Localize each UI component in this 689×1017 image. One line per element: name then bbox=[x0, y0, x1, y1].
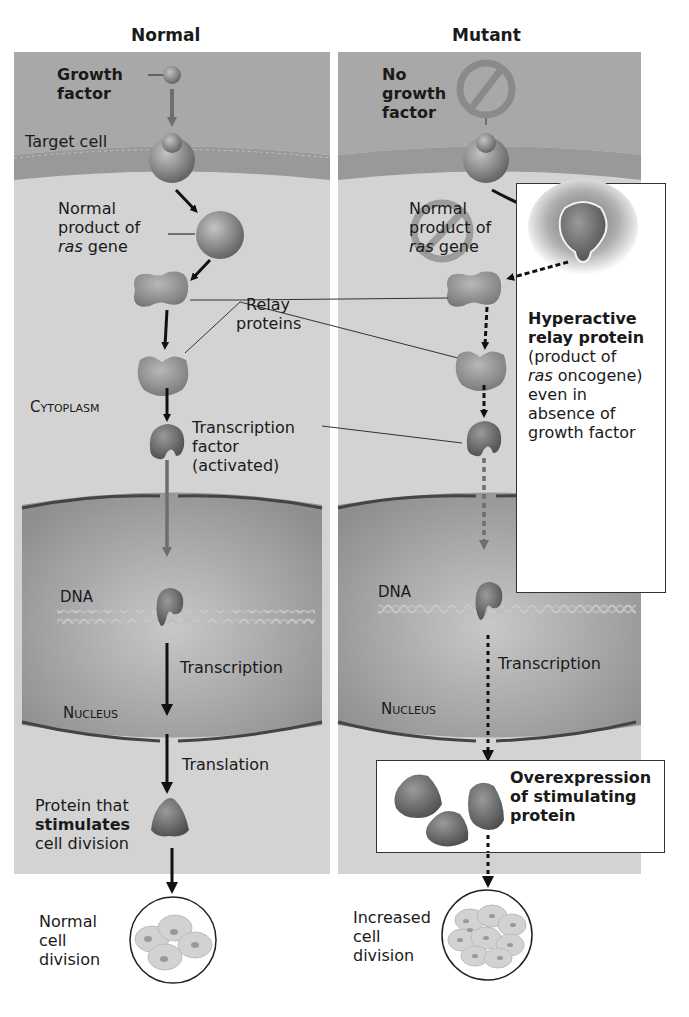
title-mutant: Mutant bbox=[452, 26, 521, 45]
title-normal: Normal bbox=[131, 26, 200, 45]
label-ras-product: Normal product of ras gene bbox=[58, 199, 140, 256]
ras-protein-normal bbox=[196, 211, 244, 259]
label-nucleus-mutant: Nucleus bbox=[381, 700, 436, 719]
label-nucleus-normal: Nucleus bbox=[63, 704, 118, 723]
label-relay-proteins: Relayproteins bbox=[236, 295, 301, 333]
label-transcription-mutant: Transcription bbox=[498, 654, 601, 673]
growth-factor-molecule bbox=[163, 66, 181, 84]
label-increased-division: Increasedcelldivision bbox=[353, 908, 431, 965]
label-transcription-factor: Transcriptionfactor(activated) bbox=[192, 418, 295, 475]
label-dna-mutant: DNA bbox=[378, 583, 411, 602]
label-normal-division: Normalcelldivision bbox=[39, 912, 100, 969]
label-transcription-normal: Transcription bbox=[180, 658, 283, 677]
label-no-growth-factor: Nogrowthfactor bbox=[382, 65, 446, 122]
label-translation: Translation bbox=[182, 755, 269, 774]
relay-protein-2 bbox=[456, 351, 507, 391]
label-dna-normal: DNA bbox=[60, 588, 93, 607]
relay-protein-1 bbox=[134, 271, 188, 306]
label-growth-factor: Growthfactor bbox=[57, 65, 123, 103]
label-cytoplasm: Cytoplasm bbox=[30, 398, 100, 417]
label-stimulating-protein: Protein thatstimulatescell division bbox=[35, 796, 130, 853]
label-target-cell: Target cell bbox=[25, 132, 107, 151]
relay-protein-2 bbox=[138, 356, 189, 396]
label-ras-product-mutant: Normal product of ras gene bbox=[409, 199, 491, 256]
label-overexpression: Overexpressionof stimulatingprotein bbox=[510, 768, 651, 825]
label-hyperactive-relay: Hyperactive relay protein (product of ra… bbox=[528, 309, 644, 442]
relay-protein-1 bbox=[447, 271, 501, 306]
